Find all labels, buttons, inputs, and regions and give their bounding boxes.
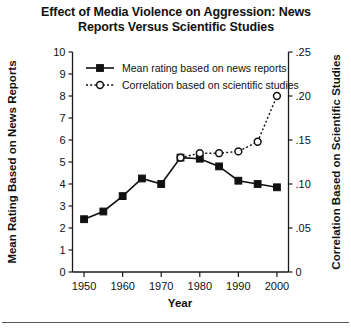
y-axis-left-ticks: 012345678910 — [53, 46, 72, 278]
series-line-1 — [84, 158, 277, 220]
x-axis-tick-label: 2000 — [265, 280, 289, 292]
data-point-marker — [274, 93, 281, 100]
data-point-marker — [196, 150, 203, 157]
y-axis-right-tick-label: .15 — [296, 134, 311, 146]
legend-item-label: Mean rating based on news reports — [122, 62, 287, 74]
data-point-marker — [139, 175, 146, 182]
data-point-marker — [119, 193, 126, 200]
data-point-marker — [274, 184, 281, 191]
legend-marker-filled-square — [97, 65, 104, 72]
x-axis-tick-label: 1990 — [226, 280, 250, 292]
legend-marker-open-circle — [97, 82, 104, 89]
x-axis-tick-label: 1950 — [72, 280, 96, 292]
y-axis-right-tick-label: .20 — [296, 90, 311, 102]
x-axis-tick-label: 1960 — [110, 280, 134, 292]
legend-item-label: Correlation based on scientific studies — [122, 79, 299, 91]
y-axis-left-tick-label: 5 — [59, 156, 65, 168]
data-point-marker — [100, 208, 107, 215]
data-point-marker — [216, 163, 223, 170]
data-point-marker — [177, 154, 184, 161]
y-axis-left-tick-label: 10 — [53, 46, 65, 58]
data-series-layer — [81, 93, 281, 223]
data-point-marker — [81, 216, 88, 223]
y-axis-left-tick-label: 0 — [59, 266, 65, 278]
data-point-marker — [158, 181, 165, 188]
y-axis-left-tick-label: 3 — [59, 200, 65, 212]
x-axis-tick-label: 1970 — [149, 280, 173, 292]
y-axis-left-tick-label: 7 — [59, 112, 65, 124]
y-axis-right-title: Correlation Based on Scientific Studies — [330, 54, 342, 269]
data-point-marker — [235, 148, 242, 155]
x-axis-title: Year — [168, 297, 193, 309]
data-point-marker — [254, 138, 261, 145]
y-axis-left-tick-label: 8 — [59, 90, 65, 102]
y-axis-left-tick-label: 9 — [59, 68, 65, 80]
y-axis-right-tick-label: .05 — [296, 222, 311, 234]
y-axis-left-tick-label: 4 — [59, 178, 65, 190]
x-axis-tick-label: 1980 — [188, 280, 212, 292]
series-line-2 — [181, 96, 277, 158]
chart-figure: Effect of Media Violence on Aggression: … — [0, 0, 351, 333]
data-point-marker — [216, 150, 223, 157]
chart-legend: Mean rating based on news reportsCorrela… — [86, 62, 299, 91]
x-axis-ticks: 195019601970198019902000 — [72, 272, 289, 292]
y-axis-right-tick-label: .10 — [296, 178, 311, 190]
y-axis-left-tick-label: 2 — [59, 222, 65, 234]
y-axis-right-tick-label: 0 — [296, 266, 302, 278]
y-axis-left-title: Mean Rating Based on News Reports — [6, 60, 18, 263]
y-axis-left-tick-label: 1 — [59, 244, 65, 256]
data-point-marker — [254, 181, 261, 188]
chart-canvas: 012345678910 0.05.10.15.20.25 1950196019… — [0, 0, 351, 333]
y-axis-right-tick-label: .25 — [296, 46, 311, 58]
y-axis-left-tick-label: 6 — [59, 134, 65, 146]
data-point-marker — [235, 177, 242, 184]
